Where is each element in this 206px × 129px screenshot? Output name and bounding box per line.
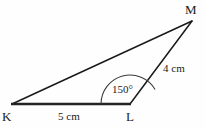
- vertex-label-m: M: [185, 3, 197, 16]
- vertex-label-k: K: [2, 110, 11, 123]
- side-length-label-kl: 5 cm: [58, 111, 80, 122]
- triangle-diagram: K L M 5 cm 4 cm 150°: [0, 0, 206, 129]
- vertex-label-l: L: [126, 110, 134, 123]
- side-length-label-lm: 4 cm: [163, 63, 185, 74]
- angle-measure-label: 150°: [112, 84, 133, 95]
